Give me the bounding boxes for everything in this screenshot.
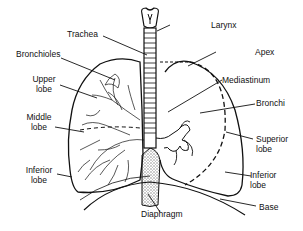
left-lung-outline xyxy=(68,59,143,193)
label-middle-lobe: Middle lobe xyxy=(22,112,56,132)
label-superior-lobe: Superior lobe xyxy=(256,134,288,154)
larynx xyxy=(142,8,159,28)
label-mediastinum: Mediastinum xyxy=(222,75,270,85)
label-trachea: Trachea xyxy=(67,29,98,39)
horizontal-fissure-dashed xyxy=(80,127,140,130)
label-base: Base xyxy=(259,202,278,212)
label-bronchioles: Bronchioles xyxy=(16,49,60,59)
label-upper-lobe: Upper lobe xyxy=(28,74,60,94)
label-larynx: Larynx xyxy=(211,20,237,30)
bronchi xyxy=(156,125,190,152)
bronchiole-tree xyxy=(78,74,144,185)
label-bronchi: Bronchi xyxy=(256,98,285,108)
label-apex: Apex xyxy=(255,47,274,57)
label-inferior-lobe-left: Inferior lobe xyxy=(22,165,56,185)
lungs-diagram: Trachea Larynx Bronchioles Apex Upper lo… xyxy=(0,0,303,231)
label-inferior-lobe-right: Inferior lobe xyxy=(250,170,276,190)
label-diaphragm: Diaphragm xyxy=(141,209,183,219)
